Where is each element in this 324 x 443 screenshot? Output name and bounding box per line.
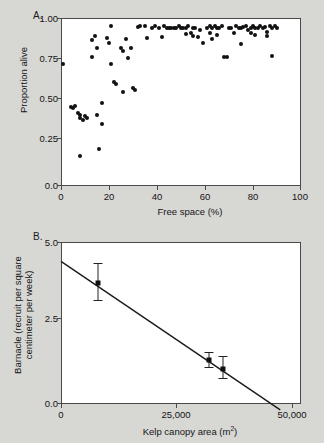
scatter-point [232, 31, 236, 35]
panel-b: B. Barnacle (recruit per square centimet… [0, 215, 324, 443]
scatter-point [160, 35, 164, 39]
scatter-point [105, 36, 109, 40]
scatter-point [198, 28, 202, 32]
scatter-point [114, 82, 118, 86]
scatter-point [201, 41, 205, 45]
scatter-point [100, 122, 104, 126]
scatter-point [93, 34, 97, 38]
error-bar-cap-upper [93, 263, 102, 264]
panel-a-ytick-3: 0.50 [18, 93, 58, 104]
scatter-point [133, 88, 137, 92]
data-point-marker [95, 280, 100, 285]
scatter-point [220, 24, 224, 28]
panel-a-ytick-5: 0.0 [18, 180, 58, 191]
scatter-point [275, 26, 279, 30]
error-bar-cap-lower [218, 378, 227, 379]
data-point-marker [220, 367, 225, 372]
scatter-point [61, 62, 65, 66]
panel-a-xtick-6: 100 [292, 191, 308, 202]
panel-a-xtick-1: 0 [58, 191, 63, 202]
scatter-point [121, 49, 125, 53]
panel-a-ytick-2: 0.75 [18, 53, 58, 64]
scatter-point [90, 38, 94, 42]
scatter-point [100, 101, 104, 105]
figure-container: A. Proportion alive 1.00 0.75 0.50 0.25 … [0, 0, 324, 443]
panel-a-ytick-mark-4 [57, 138, 61, 139]
panel-a-ytick-mark-2 [57, 58, 61, 59]
scatter-point [229, 26, 233, 30]
scatter-point [196, 35, 200, 39]
scatter-point [184, 32, 188, 36]
panel-a: A. Proportion alive 1.00 0.75 0.50 0.25 … [0, 0, 324, 222]
scatter-point [126, 56, 130, 60]
error-bar-cap-upper [218, 356, 227, 357]
scatter-point [265, 34, 269, 38]
scatter-point [157, 26, 161, 30]
scatter-point [109, 24, 113, 28]
scatter-point [225, 55, 229, 59]
panel-a-y-axis-label: Proportion alive [18, 20, 29, 140]
panel-a-xtick-mark-5 [253, 186, 254, 190]
panel-a-xtick-2: 20 [104, 191, 115, 202]
scatter-point [215, 33, 219, 37]
scatter-point [253, 33, 257, 37]
panel-a-xtick-3: 40 [152, 191, 163, 202]
scatter-point [186, 24, 190, 28]
scatter-point [124, 37, 128, 41]
scatter-point [208, 31, 212, 35]
scatter-point [97, 147, 101, 151]
data-point-marker [206, 357, 211, 362]
scatter-point [193, 26, 197, 30]
scatter-point [95, 113, 99, 117]
scatter-point [239, 42, 243, 46]
panel-a-ytick-4: 0.25 [18, 133, 58, 144]
scatter-point [249, 31, 253, 35]
panel-a-plot-area [61, 18, 301, 186]
scatter-point [129, 46, 133, 50]
panel-a-ytick-1: 1.00 [18, 13, 58, 24]
panel-a-xtick-mark-1 [61, 186, 62, 190]
scatter-point [138, 24, 142, 28]
error-bar-cap-lower [93, 300, 102, 301]
scatter-point [263, 25, 267, 29]
panel-a-xtick-mark-6 [300, 186, 301, 190]
scatter-point [210, 37, 214, 41]
scatter-point [90, 55, 94, 59]
scatter-point [95, 46, 99, 50]
panel-b-regression-line [0, 215, 324, 443]
scatter-point [265, 30, 269, 34]
panel-a-xtick-mark-4 [205, 186, 206, 190]
panel-a-xtick-5: 80 [248, 191, 259, 202]
scatter-point [81, 118, 85, 122]
scatter-point [107, 41, 111, 45]
scatter-point [191, 34, 195, 38]
panel-a-xtick-mark-3 [157, 186, 158, 190]
panel-a-ytick-mark-1 [57, 18, 61, 19]
scatter-point [270, 54, 274, 58]
panel-a-ytick-mark-3 [57, 98, 61, 99]
scatter-point [73, 104, 77, 108]
error-bar-cap-upper [204, 352, 213, 353]
scatter-point [153, 24, 157, 28]
scatter-point [121, 90, 125, 94]
panel-a-xtick-mark-2 [109, 186, 110, 190]
scatter-point [78, 154, 82, 158]
scatter-point [109, 62, 113, 66]
scatter-point [143, 24, 147, 28]
scatter-point [85, 116, 89, 120]
error-bar-cap-lower [204, 367, 213, 368]
panel-a-xtick-4: 60 [200, 191, 211, 202]
scatter-point [145, 36, 149, 40]
